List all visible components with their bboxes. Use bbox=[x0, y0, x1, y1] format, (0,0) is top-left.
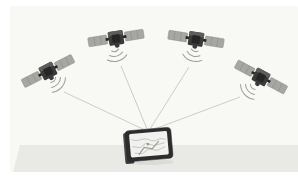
gps-satellite-diagram bbox=[0, 0, 298, 192]
gps-device-icon bbox=[123, 127, 174, 164]
